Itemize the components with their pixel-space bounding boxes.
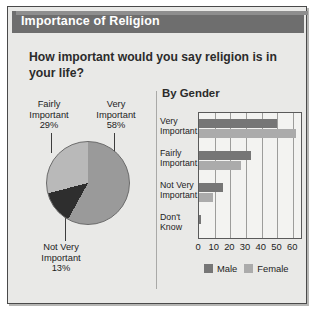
bar-male-3: [199, 215, 201, 224]
pie-chart: [46, 141, 130, 225]
legend-item-male: Male: [204, 263, 237, 274]
pie-label-very-line1: Very: [86, 99, 146, 110]
bar-female-2: [199, 193, 213, 202]
bar-cat-notvery-line2: Important: [160, 191, 198, 201]
bar-category-dont-know: Don't Know: [160, 213, 198, 233]
pie-label-notvery-line1: Not Very: [24, 242, 98, 253]
legend-swatch-female-icon: [244, 264, 253, 273]
bar-female-1: [199, 161, 241, 170]
pie-label-fairly-line2: Important: [18, 110, 80, 121]
infographic-root: Importance of Religion How important wou…: [0, 0, 316, 318]
chart-legend: Male Female: [204, 263, 289, 274]
x-axis-ticks: 0102030405060: [198, 241, 310, 253]
survey-question: How important would you say religion is …: [29, 49, 279, 81]
bar-chart-title: By Gender: [162, 87, 220, 99]
legend-swatch-male-icon: [204, 264, 213, 273]
legend-label-male: Male: [217, 263, 237, 274]
pie-label-notvery-line2: Important: [24, 253, 98, 264]
pie-leader-line-notvery: [65, 217, 66, 241]
legend-label-female: Female: [257, 263, 288, 274]
bar-male-0: [199, 119, 277, 128]
bar-category-not-very-important: Not Very Important: [160, 181, 198, 201]
pie-label-very-important: Very Important 58%: [86, 99, 146, 131]
content-panel: Importance of Religion How important wou…: [7, 6, 307, 304]
x-tick-40: 40: [256, 241, 266, 252]
x-tick-30: 30: [240, 241, 250, 252]
page-title: Importance of Religion: [21, 14, 160, 28]
bar-plot-area: [198, 112, 302, 239]
pie-leader-line-fairly: [51, 133, 52, 153]
section-divider: [156, 91, 157, 289]
pie-label-notvery-percent: 13%: [24, 263, 98, 274]
bar-category-very-important: Very Important: [160, 117, 198, 137]
bar-chart-section: By Gender Very Important Fairly Importan…: [160, 87, 312, 292]
x-tick-20: 20: [224, 241, 234, 252]
bar-cat-dontknow-line2: Know: [160, 223, 198, 233]
x-tick-60: 60: [287, 241, 297, 252]
x-tick-0: 0: [195, 241, 200, 252]
legend-item-female: Female: [244, 263, 288, 274]
pie-label-not-very-important: Not Very Important 13%: [24, 242, 98, 274]
pie-label-very-percent: 58%: [86, 120, 146, 131]
bar-cat-fairly-line2: Important: [160, 159, 198, 169]
bar-category-fairly-important: Fairly Important: [160, 149, 198, 169]
pie-label-fairly-percent: 29%: [18, 120, 80, 131]
pie-label-fairly-important: Fairly Important 29%: [18, 99, 80, 131]
bar-male-1: [199, 151, 251, 160]
title-bar: Importance of Religion: [12, 11, 304, 33]
bar-male-2: [199, 183, 223, 192]
pie-label-fairly-line1: Fairly: [18, 99, 80, 110]
x-tick-10: 10: [208, 241, 218, 252]
bar-female-0: [199, 129, 296, 138]
pie-chart-section: Fairly Important 29% Very Important 58% …: [18, 99, 154, 289]
x-tick-50: 50: [271, 241, 281, 252]
bar-cat-very-line2: Important: [160, 127, 198, 137]
pie-label-very-line2: Important: [86, 110, 146, 121]
